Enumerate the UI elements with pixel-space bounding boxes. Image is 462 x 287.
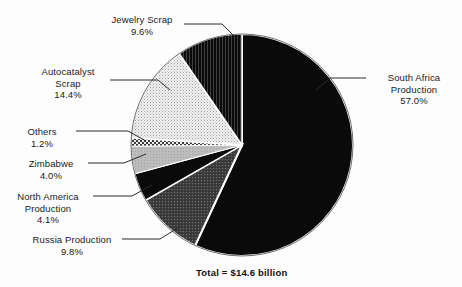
slice-label-zimbabwe-percent: 4.0% [14,170,88,182]
slice-label-russia-production: Russia Production 9.8% [22,234,122,257]
slice-label-north-america-production: North America Production 4.1% [2,191,94,226]
chart-total-note: Total = $14.6 billion [196,267,287,278]
slice-label-zimbabwe: Zimbabwe 4.0% [14,158,88,181]
slice-label-others: Others 1.2% [8,126,76,149]
slice-label-north-america-production-line1: North America [17,191,79,202]
slice-label-zimbabwe-line1: Zimbabwe [29,158,74,169]
slice-label-russia-production-percent: 9.8% [22,246,122,258]
slice-label-autocatalyst-scrap-line1: Autocatalyst [42,66,95,77]
slice-label-north-america-production-percent: 4.1% [2,214,94,226]
slice-label-others-percent: 1.2% [8,138,76,150]
slice-label-south-africa-production-percent: 57.0% [370,95,458,107]
pie-chart: Jewelry Scrap 9.6% Autocatalyst Scrap 14… [0,0,462,287]
slice-label-jewelry-scrap-line1: Jewelry Scrap [112,14,173,25]
slice-label-autocatalyst-scrap-percent: 14.4% [25,89,111,101]
slice-label-jewelry-scrap: Jewelry Scrap 9.6% [99,14,185,37]
slice-label-autocatalyst-scrap: Autocatalyst Scrap 14.4% [25,66,111,101]
slice-label-others-line1: Others [27,126,56,137]
slice-label-russia-production-line1: Russia Production [33,234,112,245]
slice-label-south-africa-production: South Africa Production 57.0% [370,72,458,107]
slice-label-south-africa-production-line2: Production [370,84,458,96]
pie-slices [131,34,353,256]
slice-label-south-africa-production-line1: South Africa [388,72,440,83]
slice-label-north-america-production-line2: Production [2,203,94,215]
slice-label-autocatalyst-scrap-line2: Scrap [25,78,111,90]
slice-label-jewelry-scrap-percent: 9.6% [99,26,185,38]
